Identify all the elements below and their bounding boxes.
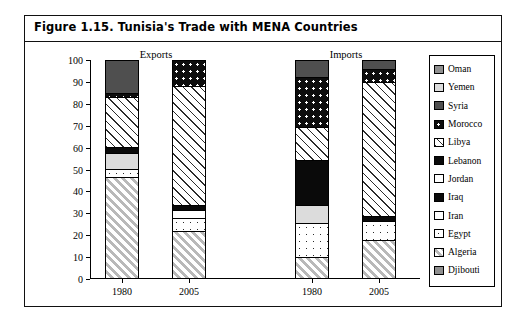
legend-item-iraq[interactable]: Iraq <box>434 188 491 206</box>
y-axis-tick-label: 0 <box>78 274 83 285</box>
legend-item-djibouti[interactable]: Djibouti <box>434 261 491 279</box>
y-axis-tick <box>86 148 90 149</box>
bar-segment-iraq <box>173 206 205 210</box>
y-axis-tick-label: 60 <box>73 142 83 153</box>
legend-item-jordan[interactable]: Jordan <box>434 170 491 188</box>
bar-segment-syria <box>106 61 138 94</box>
legend-label: Lebanon <box>448 156 481 166</box>
y-axis-tick-label: 90 <box>73 76 83 87</box>
legend-label: Algeria <box>448 247 477 257</box>
bar-segment-egypt <box>173 219 205 232</box>
page-title: Figure 1.15. Tunisia's Trade with MENA C… <box>34 20 358 34</box>
bar-segment-yemen <box>296 206 328 223</box>
legend-item-morocco[interactable]: Morocco <box>434 115 491 133</box>
legend-swatch-oman-icon <box>434 65 444 74</box>
legend-item-syria[interactable]: Syria <box>434 97 491 115</box>
bar-segment-iran <box>173 211 205 220</box>
bar-segment-egypt <box>363 222 395 242</box>
legend-label: Syria <box>448 101 468 111</box>
bar-exports-1980 <box>105 60 139 279</box>
group-label-exports: Exports <box>140 49 173 60</box>
y-axis-tick-label: 20 <box>73 230 83 241</box>
legend-label: Libya <box>448 137 470 147</box>
bar-segment-syria <box>363 61 395 70</box>
legend-swatch-iraq-icon <box>434 193 444 202</box>
legend-label: Iraq <box>448 192 463 202</box>
y-axis-tick <box>86 213 90 214</box>
legend-label: Iran <box>448 211 463 221</box>
bar-segment-algeria <box>106 178 138 278</box>
x-axis-tick-label: 2005 <box>369 286 389 297</box>
x-axis-tick <box>122 279 123 283</box>
y-axis-tick-label: 80 <box>73 98 83 109</box>
bar-segment-algeria <box>296 258 328 278</box>
chart-plot-area: Share in total MENA exports/imports (%) … <box>90 60 420 279</box>
bar-segment-morocco <box>106 94 138 98</box>
bar-segment-libya <box>173 87 205 206</box>
legend-item-egypt[interactable]: Egypt <box>434 225 491 243</box>
bar-segment-morocco <box>363 70 395 83</box>
figure-title-bar: Figure 1.15. Tunisia's Trade with MENA C… <box>25 16 501 42</box>
x-axis-tick <box>189 279 190 283</box>
bar-segment-algeria <box>363 241 395 278</box>
legend-label: Oman <box>448 64 471 74</box>
group-label-imports: Imports <box>330 49 363 60</box>
bar-segment-libya <box>363 83 395 218</box>
y-axis-tick <box>86 82 90 83</box>
bar-segment-syria <box>296 61 328 78</box>
bar-segment-libya <box>296 128 328 161</box>
x-axis-tick-label: 1980 <box>302 286 322 297</box>
bar-segment-algeria <box>173 232 205 278</box>
bar-segment-morocco <box>173 61 205 87</box>
y-axis-tick <box>86 126 90 127</box>
bar-segment-egypt <box>296 224 328 259</box>
y-axis-tick-label: 100 <box>68 55 83 66</box>
legend-swatch-libya-icon <box>434 138 444 147</box>
x-axis-tick <box>379 279 380 283</box>
legend-item-oman[interactable]: Oman <box>434 60 491 78</box>
y-axis-tick-label: 40 <box>73 186 83 197</box>
legend-item-lebanon[interactable]: Lebanon <box>434 151 491 169</box>
figure-container: Figure 1.15. Tunisia's Trade with MENA C… <box>24 15 502 307</box>
legend-item-yemen[interactable]: Yemen <box>434 78 491 96</box>
y-axis-tick-label: 10 <box>73 252 83 263</box>
y-axis-tick <box>86 170 90 171</box>
y-axis-tick <box>86 60 90 61</box>
legend-swatch-iran-icon <box>434 211 444 220</box>
legend-label: Morocco <box>448 119 482 129</box>
legend-swatch-algeria-icon <box>434 248 444 257</box>
chart-legend: OmanYemenSyriaMoroccoLibyaLebanonJordanI… <box>429 55 495 287</box>
legend-item-iran[interactable]: Iran <box>434 206 491 224</box>
legend-label: Egypt <box>448 229 471 239</box>
legend-swatch-jordan-icon <box>434 174 444 183</box>
y-axis-tick <box>86 235 90 236</box>
y-axis-tick-label: 70 <box>73 120 83 131</box>
legend-swatch-morocco-icon <box>434 120 444 129</box>
legend-label: Djibouti <box>448 265 480 275</box>
legend-item-libya[interactable]: Libya <box>434 133 491 151</box>
legend-swatch-lebanon-icon <box>434 156 444 165</box>
x-axis-tick-label: 2005 <box>179 286 199 297</box>
bar-segment-morocco <box>296 78 328 128</box>
legend-swatch-syria-icon <box>434 101 444 110</box>
y-axis-tick <box>86 279 90 280</box>
bar-segment-iraq <box>106 148 138 155</box>
y-axis-tick <box>86 104 90 105</box>
legend-item-algeria[interactable]: Algeria <box>434 243 491 261</box>
bar-segment-libya <box>106 98 138 148</box>
bar-segment-lebanon <box>296 161 328 207</box>
bar-imports-2005 <box>362 60 396 279</box>
bar-segment-egypt <box>106 170 138 179</box>
bar-segment-yemen <box>106 154 138 169</box>
bar-imports-1980 <box>295 60 329 279</box>
x-axis-tick-label: 1980 <box>112 286 132 297</box>
legend-swatch-yemen-icon <box>434 83 444 92</box>
y-axis-tick-label: 50 <box>73 164 83 175</box>
y-axis-tick <box>86 257 90 258</box>
legend-swatch-egypt-icon <box>434 229 444 238</box>
legend-label: Yemen <box>448 82 474 92</box>
y-axis-tick-label: 30 <box>73 208 83 219</box>
bar-segment-lebanon <box>363 217 395 221</box>
y-axis-tick <box>86 191 90 192</box>
legend-swatch-djibouti-icon <box>434 266 444 275</box>
